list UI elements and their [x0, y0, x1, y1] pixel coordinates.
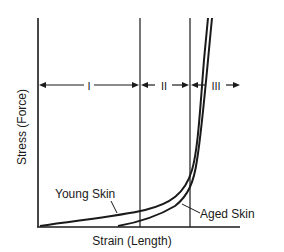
y-axis-label: Stress (Force) [15, 89, 29, 165]
aged-skin-label: Aged Skin [200, 207, 255, 221]
young-skin-label: Young Skin [55, 187, 115, 201]
young-skin-pointer [111, 201, 117, 213]
aged-skin-pointer [182, 204, 200, 213]
region-label-3: III [211, 80, 220, 92]
region-label-1: I [87, 80, 90, 92]
stress-strain-diagram: I II III Young Skin Aged Skin Strain (Le… [0, 0, 284, 252]
aged-skin-curve [118, 18, 212, 226]
x-axis-label: Strain (Length) [92, 234, 171, 248]
region-label-2: II [161, 80, 167, 92]
